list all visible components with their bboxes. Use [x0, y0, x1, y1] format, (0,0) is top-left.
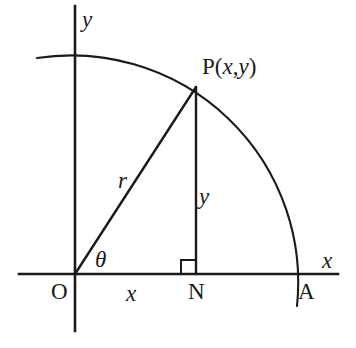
point-p-coord-x: x — [222, 54, 232, 79]
adjacent-side-label: x — [126, 282, 136, 305]
point-p-name: P — [202, 54, 215, 79]
point-p-close-paren: ) — [249, 54, 257, 79]
y-axis-label: y — [82, 8, 92, 31]
geometry-diagram-figure: y x P(x,y) r y θ O x N A — [0, 0, 356, 348]
point-p-label: P(x,y) — [202, 55, 256, 78]
point-n-label: N — [188, 280, 205, 303]
point-a-label: A — [298, 280, 315, 303]
origin-label: O — [51, 280, 68, 303]
radius-segment-op — [75, 87, 196, 274]
right-angle-marker — [181, 260, 195, 274]
opposite-side-label: y — [199, 185, 209, 208]
radius-label: r — [118, 169, 127, 192]
point-p-coord-y: y — [238, 54, 248, 79]
angle-theta-label: θ — [95, 248, 106, 271]
x-axis-label: x — [322, 249, 332, 272]
